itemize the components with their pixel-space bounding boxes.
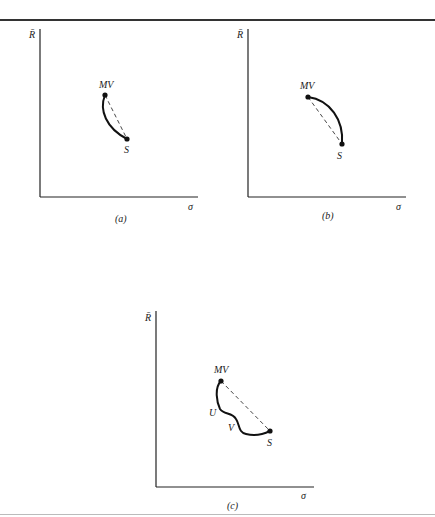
panel-b: R̄ σ MV S (b)	[236, 29, 406, 222]
point-s	[339, 141, 344, 146]
x-axis-label: σ	[396, 201, 402, 212]
point-mv	[305, 94, 310, 99]
frontier-curve	[103, 95, 127, 139]
curve-label-v: V	[228, 422, 236, 433]
point-mv-label: MV	[98, 79, 115, 90]
point-s-label: S	[124, 144, 129, 155]
frontier-curve	[217, 381, 270, 435]
point-mv	[102, 92, 107, 97]
y-axis-label: R̄	[236, 29, 243, 40]
point-s-label: S	[267, 437, 272, 448]
panel-c: R̄ σ MV S U V (c)	[144, 311, 314, 512]
panel-caption: (b)	[322, 210, 334, 222]
x-axis-label: σ	[301, 490, 307, 501]
point-mv-label: MV	[299, 80, 316, 91]
curve-label-u: U	[209, 407, 217, 418]
point-mv	[218, 378, 223, 383]
panel-caption: (c)	[227, 500, 239, 512]
bottom-rule	[0, 514, 435, 515]
figure-canvas: R̄ σ MV S (a) R̄ σ MV S (b) R̄ σ MV S U	[0, 0, 435, 517]
x-axis-label: σ	[188, 201, 194, 212]
point-s	[267, 428, 272, 433]
y-axis-label: R̄	[144, 312, 151, 323]
panel-caption: (a)	[115, 213, 127, 225]
y-axis-label: R̄	[28, 29, 35, 40]
point-s-label: S	[337, 150, 342, 161]
panel-a: R̄ σ MV S (a)	[28, 29, 198, 225]
point-s	[124, 136, 129, 141]
point-mv-label: MV	[213, 364, 230, 375]
